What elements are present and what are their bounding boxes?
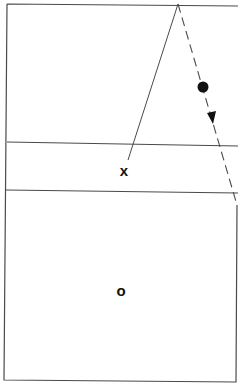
ball-movement-path-line xyxy=(178,4,237,205)
ball-icon xyxy=(198,82,209,93)
court-line-upper xyxy=(7,142,238,146)
court-diagram xyxy=(0,0,238,388)
player-o-marker: o xyxy=(116,283,125,298)
court-line-lower xyxy=(6,190,238,193)
arrowhead-icon xyxy=(207,111,216,124)
player-x-marker: x xyxy=(120,163,128,178)
pass-path-line xyxy=(128,4,178,160)
